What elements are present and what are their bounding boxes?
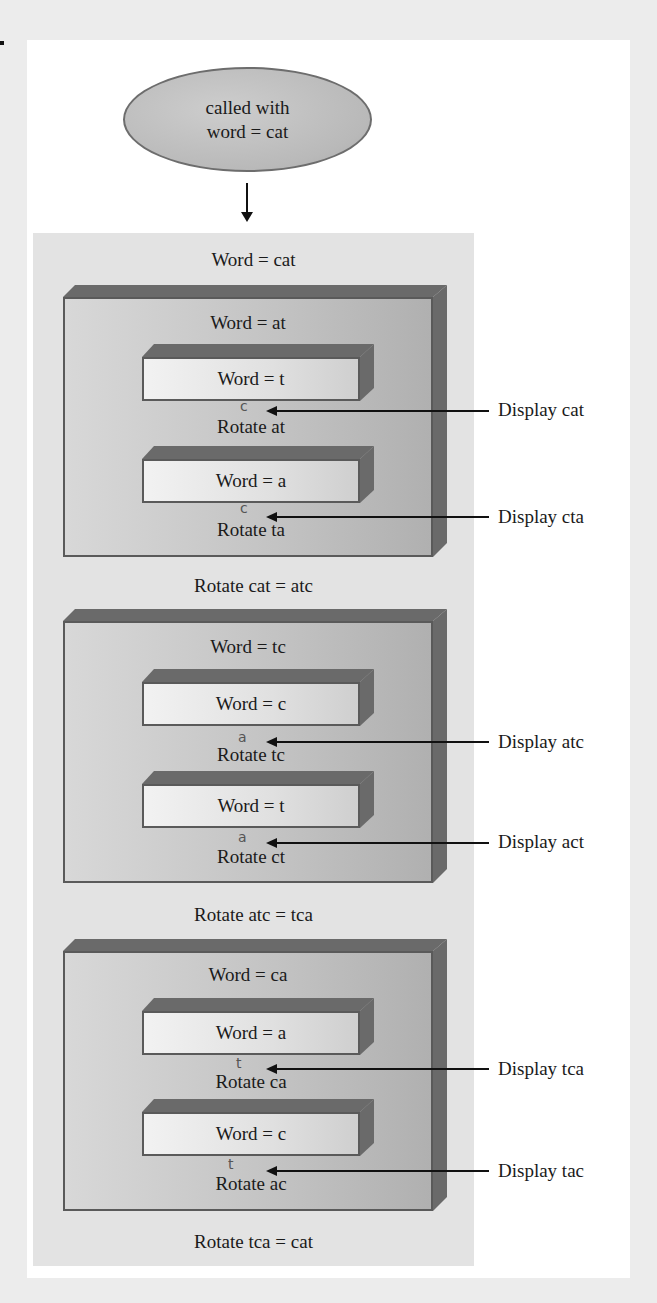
inner-box-3-1: Word = a — [142, 998, 374, 1055]
level-2-result: Rotate atc = tca — [33, 904, 474, 926]
arrow-line — [276, 1170, 489, 1172]
display-label: Display atc — [498, 731, 584, 753]
start-oval: called with word = cat — [123, 67, 372, 172]
display-label: Display cta — [498, 506, 584, 528]
start-line-1: called with — [206, 96, 290, 120]
start-line-2: word = cat — [207, 120, 288, 144]
arrow-line — [276, 741, 489, 743]
inner-box-3-2: Word = c — [142, 1099, 374, 1156]
rotate-label: Rotate ta — [142, 519, 360, 541]
arrow-line — [276, 410, 489, 412]
level-1-word: Word = at — [63, 312, 433, 334]
level-3-word: Word = ca — [63, 964, 433, 986]
pencil-mark-icon: t — [228, 1156, 234, 1172]
display-label: Display tac — [498, 1160, 584, 1182]
rotate-label: Rotate ca — [142, 1071, 360, 1093]
level-2-word: Word = tc — [63, 636, 433, 658]
display-label: Display tca — [498, 1058, 584, 1080]
level-1-result: Rotate cat = atc — [33, 575, 474, 597]
inner-box-2-2: Word = t — [142, 771, 374, 828]
level-3-result: Rotate tca = cat — [33, 1231, 474, 1253]
inner-box-1-2: Word = a — [142, 446, 374, 503]
pencil-mark-icon: c — [240, 398, 248, 414]
margin-dot — [0, 41, 4, 45]
arrow-line — [276, 1068, 489, 1070]
down-arrow-head-icon — [241, 212, 253, 222]
arrow-line — [276, 842, 489, 844]
down-arrow-icon — [246, 183, 248, 215]
top-word-label: Word = cat — [33, 249, 474, 271]
display-label: Display cat — [498, 399, 584, 421]
arrow-line — [276, 516, 489, 518]
pencil-mark-icon: c — [240, 500, 248, 516]
rotate-label: Rotate ct — [142, 846, 360, 868]
rotate-label: Rotate tc — [142, 744, 360, 766]
display-label: Display act — [498, 831, 584, 853]
rotate-label: Rotate at — [142, 416, 360, 438]
pencil-mark-icon: a — [238, 729, 247, 745]
inner-box-1-1: Word = t — [142, 344, 374, 401]
pencil-mark-icon: t — [236, 1055, 242, 1071]
pencil-mark-icon: a — [238, 829, 247, 845]
inner-box-2-1: Word = c — [142, 669, 374, 726]
rotate-label: Rotate ac — [142, 1173, 360, 1195]
